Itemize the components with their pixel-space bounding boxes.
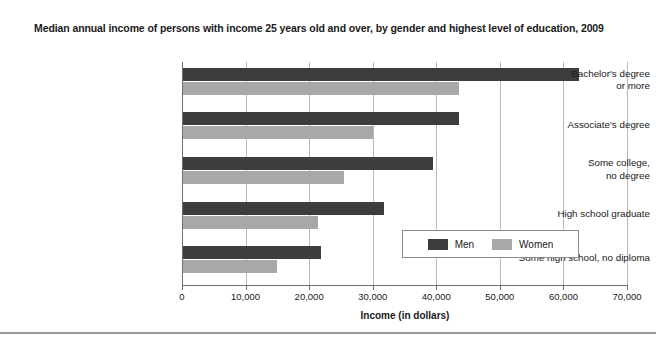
bar-women-3 (183, 216, 318, 229)
x-axis-title: Income (in dollars) (182, 310, 628, 321)
bar-women-1 (183, 126, 373, 139)
legend-swatch-women (492, 239, 512, 250)
x-tick-label: 70,000 (612, 291, 641, 302)
chart-title: Median annual income of persons with inc… (34, 22, 634, 35)
category-label: High school graduate (480, 208, 656, 221)
x-tick-mark (436, 286, 437, 290)
category-label: Some college, no degree (480, 157, 656, 182)
category-label: Associate's degree (480, 119, 656, 132)
chart-legend: Men Women (402, 230, 579, 258)
x-axis-line (182, 285, 628, 286)
x-tick-mark (309, 286, 310, 290)
bar-men-2 (183, 157, 433, 170)
x-tick-mark (182, 286, 183, 290)
x-tick-mark (563, 286, 564, 290)
bar-women-2 (183, 171, 344, 184)
bar-men-1 (183, 112, 459, 125)
x-tick-label: 60,000 (549, 291, 578, 302)
x-tick-label: 10,000 (231, 291, 260, 302)
x-tick-mark (373, 286, 374, 290)
x-tick-mark (627, 286, 628, 290)
legend-entry-men: Men (428, 239, 474, 250)
category-label: Bachelor's degree or more (480, 68, 656, 93)
chart-figure: Median annual income of persons with inc… (0, 0, 656, 342)
legend-entry-women: Women (492, 239, 553, 250)
bar-men-4 (183, 246, 321, 259)
x-tick-mark (246, 286, 247, 290)
bottom-rule (0, 332, 656, 334)
x-tick-label: 50,000 (485, 291, 514, 302)
x-tick-label: 40,000 (422, 291, 451, 302)
x-tick-mark (500, 286, 501, 290)
x-tick-label: 20,000 (295, 291, 324, 302)
x-tick-label: 30,000 (358, 291, 387, 302)
bar-men-3 (183, 202, 384, 215)
gridline (373, 62, 374, 285)
bar-women-4 (183, 260, 277, 273)
bar-women-0 (183, 82, 459, 95)
legend-label-women: Women (519, 239, 553, 250)
legend-swatch-men (428, 239, 448, 250)
x-tick-label: 0 (179, 291, 184, 302)
legend-label-men: Men (455, 239, 474, 250)
